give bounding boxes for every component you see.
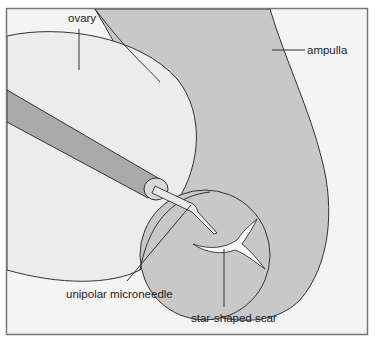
ovary-label: ovary [68, 12, 96, 24]
needle-label: unipolar microneedle [66, 288, 173, 300]
scar-label: star-shaped scar [191, 312, 277, 324]
ampulla-label: ampulla [307, 44, 348, 56]
diagram-figure: ovary ampulla unipolar microneedle star-… [0, 0, 375, 339]
